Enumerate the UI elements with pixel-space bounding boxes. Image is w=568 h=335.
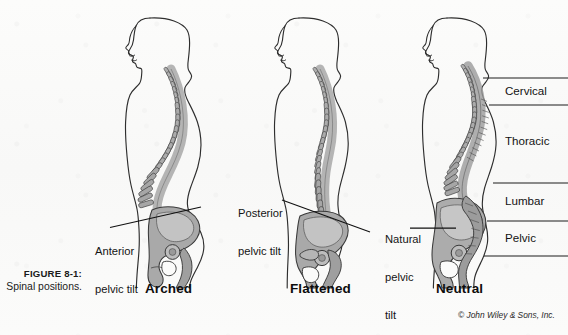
posture-label-arched: Arched: [145, 281, 192, 296]
figure-caption-text: Spinal positions.: [0, 281, 82, 292]
figure-caption-text-block: Spinal positions.: [0, 281, 82, 292]
annotation-anterior-line1: Anterior: [95, 245, 138, 258]
region-label-thoracic: Thoracic: [505, 134, 549, 147]
figure-caption-block: FIGURE 8-1:: [0, 268, 82, 279]
annotation-posterior-pelvic-tilt: Posterior pelvic tilt: [238, 182, 283, 283]
figure-flattened: [274, 18, 370, 288]
annotation-anterior-line2: pelvic tilt: [95, 283, 138, 296]
region-label-lumbar: Lumbar: [505, 194, 544, 207]
annotation-natural-pelvic-tilt: Natural pelvic tilt: [385, 208, 421, 335]
annotation-natural-line1: Natural: [385, 233, 421, 246]
region-label-pelvic: Pelvic: [505, 231, 536, 244]
pelvis-arched: [148, 207, 200, 288]
copyright-notice: © John Wiley & Sons, Inc.: [458, 310, 555, 320]
figure-number: FIGURE 8-1:: [0, 268, 82, 279]
posture-label-neutral: Neutral: [436, 281, 483, 296]
annotation-posterior-line2: pelvic tilt: [238, 245, 283, 258]
pelvis-flattened: [296, 211, 348, 288]
annotation-natural-line3: tilt: [385, 309, 421, 322]
region-divider-lines: [483, 78, 568, 256]
pelvis-neutral: [432, 196, 486, 288]
annotation-natural-line2: pelvic: [385, 271, 421, 284]
region-label-cervical: Cervical: [505, 84, 547, 97]
annotation-posterior-line1: Posterior: [238, 207, 283, 220]
annotation-anterior-pelvic-tilt: Anterior pelvic tilt: [95, 220, 138, 321]
figure-neutral: [410, 18, 496, 288]
posture-label-flattened: Flattened: [290, 281, 351, 296]
figure-canvas: Arched Flattened Neutral Anterior pelvic…: [0, 0, 568, 335]
